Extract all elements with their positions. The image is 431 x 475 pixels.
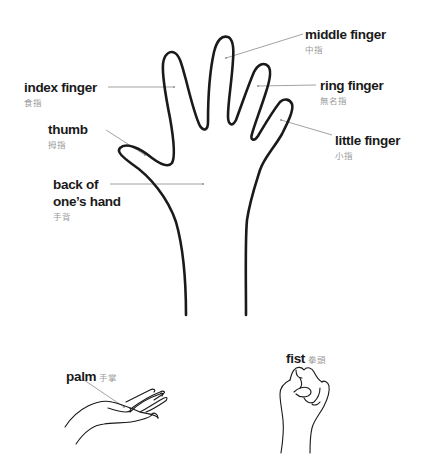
palm-illustration bbox=[65, 389, 167, 444]
label-index-finger: index finger 食指 bbox=[24, 80, 97, 109]
label-palm: palm手掌 bbox=[66, 366, 117, 385]
label-fist: fist拳頭 bbox=[286, 348, 326, 367]
label-middle-finger-en: middle finger bbox=[305, 27, 386, 42]
label-little-finger: little finger 小指 bbox=[335, 133, 400, 162]
label-index-finger-zh: 食指 bbox=[24, 97, 97, 109]
leader-middle bbox=[226, 34, 303, 58]
label-fist-zh: 拳頭 bbox=[308, 355, 326, 365]
open-hand-outline bbox=[119, 37, 292, 315]
label-back-of-hand-zh: 手背 bbox=[53, 211, 121, 223]
label-thumb-zh: 拇指 bbox=[48, 139, 88, 151]
label-middle-finger-zh: 中指 bbox=[305, 44, 386, 56]
label-fist-en: fist bbox=[286, 351, 305, 366]
leader-thumb bbox=[106, 130, 145, 155]
label-back-of-hand-en-2: one’s hand bbox=[53, 194, 121, 209]
label-thumb-en: thumb bbox=[48, 122, 88, 137]
label-ring-finger-zh: 無名指 bbox=[320, 95, 383, 107]
fist-illustration bbox=[280, 367, 329, 453]
label-middle-finger: middle finger 中指 bbox=[305, 27, 386, 56]
label-ring-finger: ring finger 無名指 bbox=[320, 78, 383, 107]
label-palm-en: palm bbox=[66, 369, 96, 384]
label-little-finger-en: little finger bbox=[335, 133, 400, 148]
label-index-finger-en: index finger bbox=[24, 80, 97, 95]
label-palm-zh: 手掌 bbox=[99, 373, 117, 383]
hand-illustration bbox=[0, 0, 431, 475]
label-thumb: thumb 拇指 bbox=[48, 122, 88, 151]
label-back-of-hand-en-1: back of bbox=[53, 177, 121, 192]
label-back-of-hand: back of one’s hand 手背 bbox=[53, 177, 121, 223]
label-ring-finger-en: ring finger bbox=[320, 78, 383, 93]
label-little-finger-zh: 小指 bbox=[335, 150, 400, 162]
